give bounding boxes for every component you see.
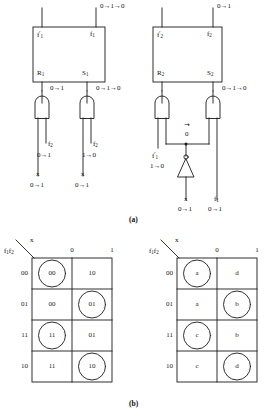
kmap-left-cell-r3c0: 11 (32, 363, 72, 370)
wire-junction-dot (185, 143, 188, 146)
input-label-x-a: x (36, 171, 40, 178)
kmap-right-cell-r2c1: b (217, 332, 257, 339)
inverter-input-value: 0→1 (178, 206, 192, 213)
kmap-right-col-header-1: 1 (227, 247, 280, 254)
kmap-left-col-header-1: 1 (82, 247, 142, 254)
kmap-right-cell-r3c1: d (217, 363, 257, 370)
latch1-bottom-right-label: S1 (82, 70, 88, 77)
kmap-right-cell-r0c0: a (177, 270, 217, 277)
figure-root: f′1 f1 R1 S1 0→1→0 f′2 f2 R2 S2 0→1 0→1 … (0, 0, 280, 418)
kmap-right-row-header-0: 00 (151, 270, 173, 277)
input-label-f2-b: f2 (93, 141, 98, 148)
kmap-left-row-header-1: 01 (6, 301, 28, 308)
input-label-x-b: x (81, 171, 85, 178)
node-value: 0 (185, 131, 189, 138)
kmap-left-cell-r2c1: 01 (72, 332, 112, 339)
latch1-top-left-label: f′1 (37, 31, 43, 39)
kmap-left-grid (16, 240, 112, 382)
gate-value-s2: 0→1→0 (222, 85, 247, 92)
kmap-left-row-header-3: 10 (6, 363, 28, 370)
kmap-right-row-header-2: 11 (151, 332, 173, 339)
kmap-left-row-header-0: 00 (6, 270, 28, 277)
input-value-f1: 0→1 (208, 206, 222, 213)
kmap-left-cell-r1c1: 01 (72, 301, 112, 308)
kmap-left-cell-r0c0: 00 (32, 270, 72, 277)
kmap-right-cell-r2c0: c (177, 332, 217, 339)
kmap-left-cell-r2c0: 11 (32, 332, 72, 339)
caption-a: (a) (129, 216, 138, 224)
kmap-left-cell-r0c1: 10 (72, 270, 112, 277)
kmap-right-grid (161, 240, 257, 382)
caption-b: (b) (129, 400, 138, 408)
kmap-right-cell-r3c0: c (177, 363, 217, 370)
figure-vector-layer (0, 0, 280, 418)
kmap-left-cell-r3c1: 10 (72, 363, 112, 370)
kmap-left-corner-bottom: f1f2 (4, 248, 14, 255)
kmap-left-corner-top: x (30, 237, 34, 244)
kmap-right-cell-r1c0: a (177, 301, 217, 308)
kmap-right-row-header-3: 10 (151, 363, 173, 370)
inverter-output-label: f′1 (152, 152, 158, 160)
inverter-output-value: 1→0 (150, 163, 164, 170)
latch2-bottom-left-label: R2 (157, 70, 164, 77)
latch2-bottom-right-label: S2 (207, 70, 213, 77)
kmap-right-cell-r1c1: b (217, 301, 257, 308)
input-value-f2-a: 0→1 (37, 152, 51, 159)
gate-value-r1: 0→1 (50, 85, 64, 92)
latch1-top-right-label: f1 (90, 31, 95, 38)
input-label-f1: f1 (214, 196, 219, 203)
input-value-x-b: 0→1 (75, 182, 89, 189)
kmap-left-cell-r1c0: 00 (32, 301, 72, 308)
latch2-top-right-label: f2 (207, 31, 212, 38)
latch2-top-wire-value: 0→1 (217, 3, 231, 10)
inverter-input-label: x (184, 196, 188, 203)
kmap-right-corner-top: x (175, 237, 179, 244)
latch1-top-wire-value: 0→1→0 (100, 3, 125, 10)
input-label-f2-a: f2 (48, 141, 53, 148)
latch1-bottom-left-label: R1 (37, 70, 44, 77)
kmap-right-row-header-1: 01 (151, 301, 173, 308)
input-value-f2-b: 1→0 (82, 152, 96, 159)
kmap-left-row-header-2: 11 (6, 332, 28, 339)
input-value-x-a: 0→1 (30, 182, 44, 189)
latch2-top-left-label: f′2 (157, 31, 163, 39)
kmap-right-cell-r0c1: d (217, 270, 257, 277)
node-arrow-icon: → (184, 122, 190, 129)
inverter-triangle (178, 159, 194, 177)
kmap-right-corner-bottom: f1f2 (149, 248, 159, 255)
gate-value-s1: 0→1→0 (96, 85, 121, 92)
